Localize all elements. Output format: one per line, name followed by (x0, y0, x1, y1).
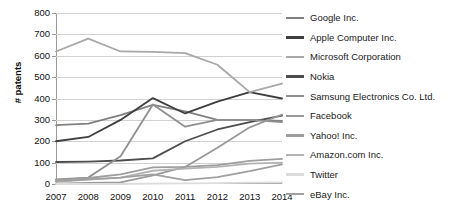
legend-label-apple-computer-inc: Apple Computer Inc. (310, 32, 397, 43)
x-tick-label-2009: 2009 (105, 191, 137, 202)
legend-label-facebook: Facebook (310, 110, 352, 121)
legend-label-samsung-electronics-co-ltd: Samsung Electronics Co. Ltd. (310, 91, 435, 102)
legend-label-ebay-inc: eBay Inc. (310, 189, 350, 200)
legend-label-nokia: Nokia (310, 71, 334, 82)
plot-area (56, 13, 282, 184)
y-tick-label-300: 300 (24, 115, 50, 125)
legend-swatch-samsung-electronics-co-ltd (286, 95, 304, 97)
legend-label-twitter: Twitter (310, 169, 338, 180)
legend-swatch-ebay-inc (286, 193, 304, 195)
legend-swatch-twitter (286, 173, 304, 175)
legend-swatch-apple-computer-inc (286, 36, 304, 38)
legend-label-yahoo-inc: Yahoo! Inc. (310, 130, 357, 141)
y-tick-label-800: 800 (24, 8, 50, 18)
legend-item-twitter[interactable]: Twitter (286, 165, 453, 185)
x-tick-label-2010: 2010 (137, 191, 169, 202)
legend-label-amazon-com-inc: Amazon.com Inc. (310, 149, 383, 160)
patents-line-chart: # patents 0100200300400500600700800 2007… (0, 0, 453, 218)
legend-item-amazon-com-inc[interactable]: Amazon.com Inc. (286, 145, 453, 165)
legend-item-facebook[interactable]: Facebook (286, 106, 453, 126)
legend-item-yahoo-inc[interactable]: Yahoo! Inc. (286, 126, 453, 146)
y-axis-title: # patents (12, 38, 23, 128)
x-tick-label-2012: 2012 (201, 191, 233, 202)
legend-swatch-nokia (286, 75, 304, 77)
x-tick-label-2013: 2013 (234, 191, 266, 202)
legend-item-ebay-inc[interactable]: eBay Inc. (286, 184, 453, 204)
y-tick-label-100: 100 (24, 158, 50, 168)
chart-legend: Google Inc.Apple Computer Inc.Microsoft … (286, 8, 453, 204)
series-lines (56, 13, 282, 184)
legend-item-apple-computer-inc[interactable]: Apple Computer Inc. (286, 28, 453, 48)
y-tick-label-0: 0 (24, 179, 50, 189)
legend-label-microsoft-corporation: Microsoft Corporation (310, 51, 401, 62)
legend-item-nokia[interactable]: Nokia (286, 67, 453, 87)
legend-swatch-amazon-com-inc (286, 154, 304, 156)
y-tick-label-200: 200 (24, 136, 50, 146)
x-tick-label-2008: 2008 (72, 191, 104, 202)
legend-item-microsoft-corporation[interactable]: Microsoft Corporation (286, 47, 453, 67)
legend-swatch-google-inc (286, 17, 304, 19)
legend-label-google-inc: Google Inc. (310, 12, 359, 23)
y-tick-label-400: 400 (24, 94, 50, 104)
y-tick-label-500: 500 (24, 72, 50, 82)
x-tick-label-2007: 2007 (40, 191, 72, 202)
legend-swatch-yahoo-inc (286, 134, 304, 136)
legend-item-samsung-electronics-co-ltd[interactable]: Samsung Electronics Co. Ltd. (286, 86, 453, 106)
series-line-microsoft-corporation (56, 39, 282, 92)
y-tick-label-600: 600 (24, 51, 50, 61)
y-tick-label-700: 700 (24, 29, 50, 39)
x-tick-label-2011: 2011 (169, 191, 201, 202)
legend-swatch-facebook (286, 115, 304, 117)
legend-item-google-inc[interactable]: Google Inc. (286, 8, 453, 28)
legend-swatch-microsoft-corporation (286, 56, 304, 58)
series-line-samsung-electronics-co-ltd (56, 104, 282, 179)
